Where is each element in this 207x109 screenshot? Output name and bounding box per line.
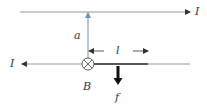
length-label: l [116, 45, 120, 56]
field-into-page-icon [82, 58, 94, 70]
top-current-label: I [195, 6, 199, 17]
bottom-current-label: I [10, 58, 14, 69]
force-label: f [115, 92, 119, 103]
diagram-canvas [0, 0, 207, 109]
diagram-stage: I I a l B f [0, 0, 207, 109]
distance-label: a [74, 30, 81, 41]
field-label: B [83, 81, 91, 92]
force-arrow [114, 66, 123, 85]
